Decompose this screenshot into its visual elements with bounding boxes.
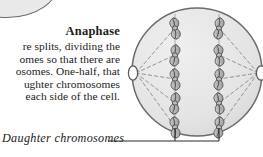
left-spindle-pole: [128, 66, 137, 80]
cell-membrane: [132, 8, 262, 136]
anaphase-cell-diagram: [0, 0, 263, 157]
figure-panel: Anaphase re splits, dividing the omes so…: [0, 0, 263, 157]
right-spindle-pole: [256, 66, 263, 80]
